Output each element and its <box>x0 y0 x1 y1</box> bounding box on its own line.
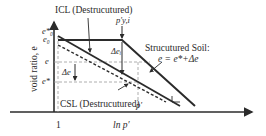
csl-pointer <box>118 84 128 90</box>
structured-label-line1: Strucutured Soil: <box>145 43 210 53</box>
void-ratio-diagram: ICL (Destrucutured) p′y,i Δeᵢ Δe Strucut… <box>0 0 266 136</box>
x-axis-label: ln p′ <box>113 120 131 130</box>
y-tick-e-0: e₀ <box>43 34 50 44</box>
icl-pointer <box>88 18 90 52</box>
p-prime-label: p′ <box>135 100 142 110</box>
yield-stress-label: p′y,i <box>115 15 131 25</box>
x-tick-1: 1 <box>56 120 61 130</box>
delta-e-label: Δe <box>61 67 71 77</box>
y-tick-e-star: e* <box>42 76 51 86</box>
csl-label: CSL (Destrucutured) <box>60 99 140 110</box>
y-axis-label: void ratio, e <box>29 46 39 92</box>
structured-label-line2: e = e*+Δe <box>158 54 199 64</box>
y-tick-e: e <box>45 56 49 66</box>
delta-e-i-label: Δeᵢ <box>110 46 121 56</box>
